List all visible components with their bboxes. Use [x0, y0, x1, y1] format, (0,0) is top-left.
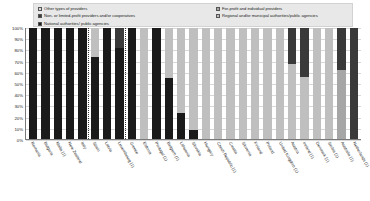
x-axis-label-slot: Luxembourg (1) — [113, 141, 125, 201]
bar-slot[interactable] — [138, 28, 150, 139]
bar-slot[interactable] — [348, 28, 360, 139]
stacked-bar[interactable] — [251, 28, 259, 139]
stacked-bar[interactable] — [140, 28, 148, 139]
bar-slot[interactable] — [311, 28, 323, 139]
legend-item-label: Non- or limited-profit providers and/or … — [44, 13, 135, 19]
stacked-bar[interactable] — [189, 28, 197, 139]
bar-slot[interactable] — [249, 28, 261, 139]
bar-slot[interactable] — [163, 28, 175, 139]
x-axis-label-slot: Netherlands (1) — [348, 141, 360, 201]
bar-slot[interactable] — [187, 28, 199, 139]
bar-slot[interactable] — [175, 28, 187, 139]
bar-slot[interactable] — [101, 28, 113, 139]
stacked-bar[interactable] — [239, 28, 247, 139]
bar-slot[interactable] — [39, 28, 51, 139]
legend-item-label: National authorities/ public agencies — [44, 21, 109, 27]
x-axis-tick-label: Netherlands (1) — [351, 141, 369, 168]
stacked-bar[interactable] — [350, 28, 358, 139]
stacked-bar[interactable] — [214, 28, 222, 139]
stacked-bar[interactable] — [165, 28, 173, 139]
legend-item[interactable]: Other types of providers — [38, 5, 213, 12]
stacked-bar[interactable] — [91, 28, 99, 139]
stacked-bar[interactable] — [226, 28, 234, 139]
bar-slot[interactable] — [27, 28, 39, 139]
x-axis-label-slot: Croatia — [224, 141, 236, 201]
y-axis-tick-label: 0% — [17, 138, 23, 143]
bar-slot[interactable] — [126, 28, 138, 139]
stacked-bar[interactable] — [78, 28, 86, 139]
bar-slot[interactable] — [261, 28, 273, 139]
x-axis-label-slot: Malta (1) — [51, 141, 63, 201]
bar-segment — [313, 28, 321, 139]
bar-segment — [177, 28, 185, 113]
stacked-bar[interactable] — [325, 28, 333, 139]
bar-slot[interactable] — [89, 28, 101, 139]
bar-segment — [152, 28, 160, 139]
bar-segment — [325, 28, 333, 139]
bar-segment — [66, 28, 74, 139]
stacked-bar[interactable] — [337, 28, 345, 139]
bar-segment — [288, 64, 296, 139]
bar-slot[interactable] — [76, 28, 88, 139]
stacked-bar[interactable] — [313, 28, 321, 139]
bar-segment — [350, 28, 358, 139]
x-axis-label-slot: Ireland (1) — [298, 141, 310, 201]
stacked-bar[interactable] — [152, 28, 160, 139]
stacked-bar[interactable] — [177, 28, 185, 139]
bar-slot[interactable] — [298, 28, 310, 139]
stacked-bar[interactable] — [115, 28, 123, 139]
legend-swatch-icon — [38, 7, 42, 11]
bar-segment — [226, 28, 234, 139]
bar-segment — [103, 28, 111, 139]
bar-slot[interactable] — [274, 28, 286, 139]
x-axis-label-slot: Estonia — [137, 141, 149, 201]
stacked-bar[interactable] — [202, 28, 210, 139]
stacked-bar[interactable] — [103, 28, 111, 139]
bar-slot[interactable] — [150, 28, 162, 139]
bar-slot[interactable] — [200, 28, 212, 139]
bar-slot[interactable] — [286, 28, 298, 139]
legend-item[interactable]: Regional and/or municipal authorities/pu… — [216, 13, 356, 20]
legend-item[interactable]: National authorities/ public agencies — [38, 20, 213, 27]
x-axis-label-slot: Spain — [88, 141, 100, 201]
bar-segment — [189, 28, 197, 130]
stacked-bar[interactable] — [41, 28, 49, 139]
chart-legend: Other types of providersNon- or limited-… — [33, 3, 353, 27]
stacked-bar[interactable] — [66, 28, 74, 139]
stacked-bar[interactable] — [54, 28, 62, 139]
bar-segment — [165, 78, 173, 139]
bar-slot[interactable] — [64, 28, 76, 139]
stacked-bar[interactable] — [300, 28, 308, 139]
bar-segment — [115, 48, 123, 139]
x-axis-label-slot: Portugal (1) — [150, 141, 162, 201]
legend-item-label: For-profit and individual providers — [222, 6, 282, 12]
x-axis-label-slot: Greece — [125, 141, 137, 201]
x-axis-label-slot: Latvia — [100, 141, 112, 201]
legend-item[interactable]: For-profit and individual providers — [216, 5, 356, 12]
plot-area — [25, 28, 361, 140]
bar-segment — [91, 57, 99, 139]
stacked-bar[interactable] — [128, 28, 136, 139]
stacked-bar[interactable] — [276, 28, 284, 139]
legend-item[interactable]: Non- or limited-profit providers and/or … — [38, 13, 213, 20]
bar-slot[interactable] — [52, 28, 64, 139]
stacked-bar[interactable] — [288, 28, 296, 139]
group-separator — [88, 28, 89, 139]
bar-slot[interactable] — [335, 28, 347, 139]
bar-slot[interactable] — [224, 28, 236, 139]
bar-slot[interactable] — [237, 28, 249, 139]
legend-item-label: Other types of providers — [44, 6, 87, 12]
bar-slot[interactable] — [212, 28, 224, 139]
bar-segment — [128, 28, 136, 139]
legend-swatch-icon — [38, 22, 42, 26]
stacked-bar[interactable] — [29, 28, 37, 139]
bar-segment — [276, 28, 284, 139]
stacked-bar[interactable] — [263, 28, 271, 139]
bar-segment — [78, 28, 86, 139]
x-axis-label-slot: Serbia (1) — [323, 141, 335, 201]
bar-segment — [54, 28, 62, 139]
bar-segment — [337, 28, 345, 70]
bar-slot[interactable] — [113, 28, 125, 139]
y-axis-tick-label: 100% — [12, 26, 23, 31]
bar-slot[interactable] — [323, 28, 335, 139]
